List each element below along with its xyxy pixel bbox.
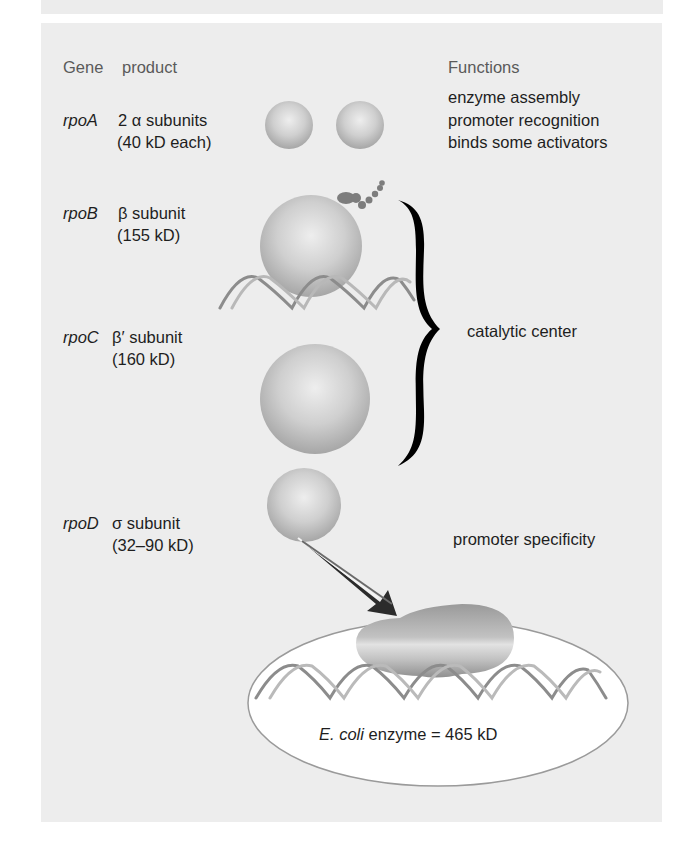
holoenzyme-label: E. coli enzyme = 465 kD: [319, 725, 497, 744]
sigma-subunit-sphere: [267, 468, 341, 542]
assembly-arrow-icon: [298, 538, 397, 616]
beta-prime-subunit-sphere: [260, 344, 370, 454]
beta-subunit-ligand-icon: [337, 180, 385, 209]
beta-subunit-on-dna: [220, 180, 414, 308]
catalytic-center-brace-icon: [398, 200, 440, 466]
holoenzyme-group: [248, 604, 628, 786]
holoenzyme-mass: enzyme = 465 kD: [369, 725, 498, 743]
holoenzyme-organism: E. coli: [319, 725, 364, 743]
alpha-subunit-spheres: [265, 101, 384, 149]
